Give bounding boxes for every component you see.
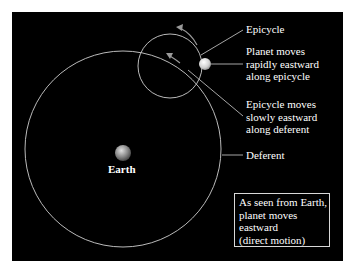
leader-epicycle-motion	[188, 70, 243, 116]
note-box: As seen from Earth, planet moves eastwar…	[234, 193, 330, 247]
label-deferent: Deferent	[246, 149, 284, 162]
epicycle-circle	[138, 34, 202, 98]
planet-icon	[199, 58, 211, 70]
label-epicycle: Epicycle	[246, 23, 284, 36]
label-planet-motion: Planet moves rapidly eastward along epic…	[246, 45, 319, 83]
earth-icon	[115, 145, 131, 161]
label-epicycle-motion: Epicycle moves slowly eastward along def…	[246, 98, 317, 136]
note-box-text: As seen from Earth, planet moves eastwar…	[235, 194, 329, 248]
label-earth: Earth	[108, 163, 136, 176]
epicycle-rotation-arrow-icon	[176, 24, 197, 45]
leader-epicycle	[201, 30, 243, 55]
